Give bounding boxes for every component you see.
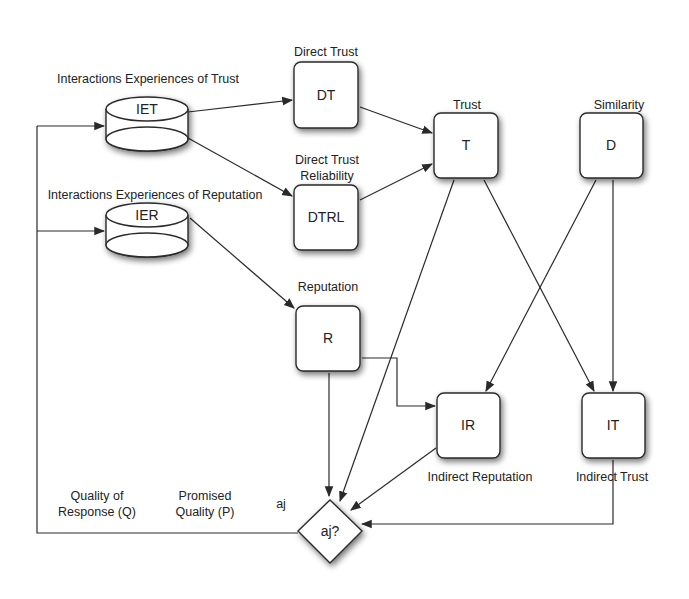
node-dt-text: DT	[317, 87, 336, 103]
node-it-text: IT	[607, 417, 620, 433]
label-dtrl-line2: Reliability	[300, 169, 354, 183]
label-aj: aj	[276, 497, 286, 511]
edge-iet-to-dt	[188, 100, 292, 112]
label-dt: Direct Trust	[294, 45, 358, 59]
node-d-text: D	[606, 137, 616, 153]
node-ier-text: IER	[135, 207, 158, 223]
node-ir[interactable]: IR	[437, 393, 500, 458]
edge-r-to-ir	[362, 358, 435, 406]
label-d: Similarity	[594, 98, 645, 112]
edge-dt-to-t	[360, 107, 432, 133]
edge-t-to-it	[484, 180, 594, 391]
node-ir-text: IR	[461, 417, 475, 433]
node-d[interactable]: D	[580, 113, 643, 178]
label-ir: Indirect Reputation	[428, 470, 533, 484]
edge-ier-to-r	[190, 218, 294, 308]
node-iet[interactable]: IET	[106, 97, 188, 151]
label-quality-line1: Quality of	[71, 489, 124, 503]
label-dtrl-line1: Direct Trust	[295, 153, 359, 167]
label-promised-line1: Promised	[179, 489, 232, 503]
label-ier: Interactions Experiences of Reputation	[48, 188, 263, 202]
node-decision-text: aj?	[321, 523, 340, 539]
label-promised-line2: Quality (P)	[175, 505, 234, 519]
node-t[interactable]: T	[434, 113, 498, 178]
node-t-text: T	[462, 137, 471, 153]
node-r[interactable]: R	[296, 306, 360, 371]
node-dtrl[interactable]: DTRL	[294, 185, 358, 250]
node-r-text: R	[323, 330, 333, 346]
node-ier[interactable]: IER	[106, 203, 188, 257]
edge-d-to-ir	[486, 180, 596, 391]
label-t: Trust	[453, 98, 482, 112]
label-r: Reputation	[298, 280, 359, 294]
node-dt[interactable]: DT	[294, 62, 358, 128]
node-dtrl-text: DTRL	[308, 209, 345, 225]
label-it: Indirect Trust	[576, 470, 649, 484]
edge-ir-to-decision	[351, 448, 436, 510]
edge-dtrl-to-t	[360, 164, 432, 200]
trust-reputation-diagram: IET Interactions Experiences of Trust IE…	[0, 0, 689, 599]
label-quality-line2: Response (Q)	[58, 505, 136, 519]
label-iet: Interactions Experiences of Trust	[57, 72, 240, 86]
node-iet-text: IET	[136, 101, 158, 117]
node-it[interactable]: IT	[582, 393, 645, 458]
